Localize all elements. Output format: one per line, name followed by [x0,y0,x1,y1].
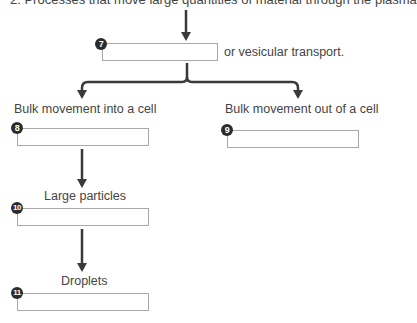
question-title: 2. Processes that move large quantities … [10,0,410,7]
chain-label-droplets: Droplets [61,274,108,288]
branch-label-out-of-cell: Bulk movement out of a cell [225,102,379,116]
number-badge-7: 7 [95,38,107,50]
number-badge-11: 11 [11,287,23,299]
chain-label-large-particles: Large particles [44,189,126,203]
number-badge-9: 9 [221,124,233,136]
branch-label-into-cell: Bulk movement into a cell [14,102,156,116]
answer-box-10[interactable] [17,208,149,226]
answer-box-7[interactable] [102,43,218,61]
answer-box-8[interactable] [17,128,149,146]
top-node-suffix: or vesicular transport. [224,45,344,59]
number-badge-10: 10 [11,202,23,214]
number-badge-8: 8 [11,122,23,134]
answer-box-11[interactable] [17,293,149,311]
answer-box-9[interactable] [227,130,359,148]
